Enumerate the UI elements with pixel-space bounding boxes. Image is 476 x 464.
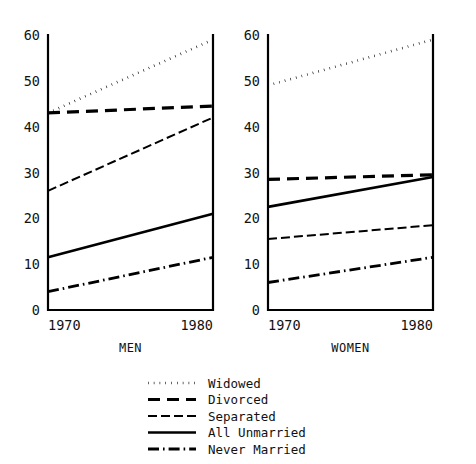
y-tick-label: 10	[24, 256, 40, 272]
unmarried-population-line-chart: 010203040506019701980MEN0102030405060197…	[0, 0, 476, 464]
y-tick-label: 20	[24, 210, 40, 226]
y-tick-label: 0	[32, 302, 40, 318]
legend-label: Divorced	[208, 392, 268, 407]
legend-label: Widowed	[208, 376, 261, 391]
y-tick-label: 40	[24, 119, 40, 135]
y-tick-label: 10	[244, 256, 260, 272]
x-tick-label: 1980	[400, 317, 433, 333]
legend-label: Never Married	[208, 442, 306, 457]
panel-caption: MEN	[119, 341, 142, 355]
x-tick-label: 1970	[268, 317, 301, 333]
panel-caption: WOMEN	[331, 341, 370, 355]
y-tick-label: 60	[244, 27, 260, 43]
x-tick-label: 1980	[180, 317, 213, 333]
y-tick-label: 0	[252, 302, 260, 318]
legend-label: Separated	[208, 409, 276, 424]
x-tick-label: 1970	[48, 317, 81, 333]
y-tick-label: 30	[24, 165, 40, 181]
y-tick-label: 30	[244, 165, 260, 181]
y-tick-label: 50	[24, 73, 40, 89]
legend-label: All Unmarried	[208, 425, 306, 440]
y-tick-label: 60	[24, 27, 40, 43]
y-tick-label: 40	[244, 119, 260, 135]
y-tick-label: 20	[244, 210, 260, 226]
y-tick-label: 50	[244, 73, 260, 89]
